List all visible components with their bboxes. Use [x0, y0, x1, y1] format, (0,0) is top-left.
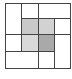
- outer-border-left: [5, 3, 6, 69]
- grid-line-vertical: [38, 3, 39, 69]
- shaded-cell-top-left: [21, 18, 38, 34]
- shaded-cell-bottom-right: [38, 34, 54, 51]
- grid-line-vertical: [54, 18, 55, 69]
- grid-line-horizontal: [5, 34, 71, 35]
- shaded-cell-top-right: [38, 18, 54, 34]
- grid-line-horizontal: [5, 51, 55, 52]
- grid-line-vertical: [21, 3, 22, 52]
- grid-line-horizontal: [21, 18, 71, 19]
- shaded-cell-bottom-left: [21, 34, 38, 51]
- outer-border-right: [70, 3, 71, 69]
